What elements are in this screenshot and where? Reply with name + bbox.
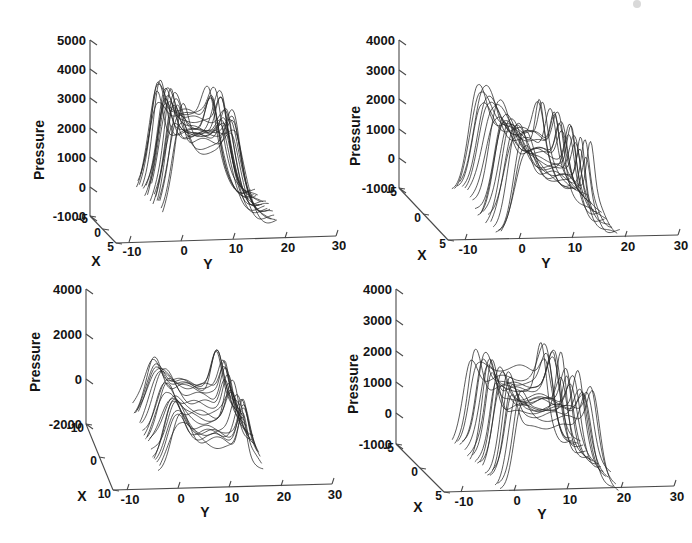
x-tick-label: -5 xyxy=(386,185,397,199)
x-tick-label: -10 xyxy=(67,421,85,435)
trace-bundle-top-left xyxy=(137,80,277,223)
x-ticks-tr xyxy=(399,188,454,241)
y-axis-line-tl xyxy=(116,236,336,243)
y-axis-line-tr xyxy=(448,235,678,240)
pressure-ticks-tl xyxy=(90,40,97,221)
y-tick-label: 10 xyxy=(563,492,577,507)
y-tick-label: 20 xyxy=(617,490,631,505)
y-tick-label: -10 xyxy=(459,242,478,257)
pressure-tick-label: 0 xyxy=(385,406,392,421)
y-tick-label: 30 xyxy=(332,238,346,253)
panel-top-left-svg: 5000 4000 3000 2000 1000 0 -1000 Pressur… xyxy=(0,0,346,272)
pressure-ticks-bl xyxy=(86,289,93,429)
y-ticks-bl xyxy=(127,478,334,490)
x-tick-label: 0 xyxy=(90,454,97,468)
y-tick-label: 30 xyxy=(328,487,342,502)
x-axis-title: X xyxy=(77,488,87,504)
x-tick-label: 0 xyxy=(411,465,418,479)
y-tick-label: -10 xyxy=(455,494,474,509)
pressure-tick-label: 2000 xyxy=(363,344,392,359)
pressure-axis-title: Pressure xyxy=(27,332,43,392)
x-tick-label: -5 xyxy=(77,212,88,226)
pressure-tick-label: 4000 xyxy=(53,282,82,297)
trace-bundle-bottom-left xyxy=(133,350,263,470)
y-axis-title: Y xyxy=(200,504,210,520)
y-tick-label: 20 xyxy=(621,239,635,254)
panel-top-right: 4000 3000 2000 1000 0 -1000 Pressure -5 … xyxy=(346,0,692,272)
x-tick-label: 0 xyxy=(94,226,101,240)
pressure-tick-label: 2000 xyxy=(366,92,395,107)
x-tick-label: 0 xyxy=(414,211,421,225)
panel-bottom-right: 4000 3000 2000 1000 0 -1000 Pressure -5 … xyxy=(346,272,692,543)
pressure-tick-label: 0 xyxy=(79,180,86,195)
y-axis-title: Y xyxy=(541,255,551,271)
panel-bottom-left-svg: 4000 2000 0 -2000 Pressure -10 0 10 X -1… xyxy=(0,272,346,543)
pressure-tick-label: 4000 xyxy=(57,62,86,77)
pressure-tick-label: 3000 xyxy=(366,63,395,78)
pressure-trace xyxy=(493,392,611,471)
pressure-trace xyxy=(138,82,252,195)
y-axis-title: Y xyxy=(203,256,213,272)
y-tick-label: 0 xyxy=(518,241,525,256)
x-tick-label: 5 xyxy=(439,237,446,251)
pressure-ticks-br xyxy=(396,289,403,449)
y-tick-label: 0 xyxy=(177,491,184,506)
x-axis-title: X xyxy=(417,247,427,263)
panel-bottom-right-svg: 4000 3000 2000 1000 0 -1000 Pressure -5 … xyxy=(346,272,692,543)
pressure-tick-label: 4000 xyxy=(363,282,392,297)
x-tick-label: 5 xyxy=(435,489,442,503)
pressure-tick-label: 2000 xyxy=(57,121,86,136)
pressure-axis-title: Pressure xyxy=(347,106,363,166)
y-tick-label: 0 xyxy=(180,243,187,258)
y-tick-label: 10 xyxy=(568,240,582,255)
panel-top-right-svg: 4000 3000 2000 1000 0 -1000 Pressure -5 … xyxy=(346,0,692,272)
pressure-tick-label: 1000 xyxy=(363,375,392,390)
y-tick-label: -10 xyxy=(123,244,142,259)
y-tick-label: 10 xyxy=(229,241,243,256)
x-tick-label: 5 xyxy=(107,240,114,254)
y-tick-label: 0 xyxy=(513,493,520,508)
y-tick-label: 20 xyxy=(277,489,291,504)
y-tick-label: 20 xyxy=(281,240,295,255)
panel-bottom-left: 4000 2000 0 -2000 Pressure -10 0 10 X -1… xyxy=(0,272,346,543)
pressure-tick-label: 1000 xyxy=(366,122,395,137)
pressure-ticks-tr xyxy=(399,40,406,193)
x-axis-title: X xyxy=(413,499,423,515)
x-axis-title: X xyxy=(91,253,101,269)
y-axis-title: Y xyxy=(537,506,547,522)
y-tick-label: 30 xyxy=(670,489,684,504)
panel-top-left: 5000 4000 3000 2000 1000 0 -1000 Pressur… xyxy=(0,0,346,272)
scan-artifact-speck xyxy=(633,0,641,8)
pressure-axis-title: Pressure xyxy=(346,354,361,414)
y-tick-label: 30 xyxy=(674,238,688,253)
pressure-tick-label: 3000 xyxy=(57,91,86,106)
y-tick-label: -10 xyxy=(121,492,140,507)
pressure-trace xyxy=(154,109,268,206)
pressure-tick-label: 4000 xyxy=(366,33,395,48)
pressure-tick-label: 0 xyxy=(388,151,395,166)
trace-bundle-top-right xyxy=(452,85,619,233)
pressure-tick-label: 5000 xyxy=(57,33,86,48)
pressure-tick-label: 0 xyxy=(75,372,82,387)
trace-bundle-bottom-right xyxy=(452,343,618,490)
pressure-tick-label: 2000 xyxy=(53,327,82,342)
pressure-axis-title: Pressure xyxy=(31,120,47,180)
x-tick-label: 10 xyxy=(98,487,112,501)
pressure-trace xyxy=(478,122,596,215)
y-tick-label: 10 xyxy=(225,490,239,505)
x-tick-label: -5 xyxy=(383,441,394,455)
y-axis-line-bl xyxy=(113,484,332,490)
y-axis-line-br xyxy=(444,486,674,492)
pressure-tick-label: 1000 xyxy=(57,150,86,165)
y-ticks-tr xyxy=(465,229,680,240)
pressure-tick-label: 3000 xyxy=(363,313,392,328)
waterfall-figure: 5000 4000 3000 2000 1000 0 -1000 Pressur… xyxy=(0,0,692,543)
pressure-trace xyxy=(488,377,606,476)
